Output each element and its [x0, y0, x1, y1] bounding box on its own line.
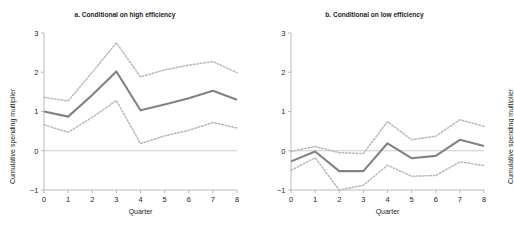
y-axis-tick-label: 3 [34, 29, 38, 38]
x-axis-tick-label: 0 [289, 195, 293, 204]
confidence-band-line [291, 158, 484, 190]
panel-a-plot: −10123012345678 [0, 0, 250, 227]
x-axis-tick-label: 6 [187, 195, 191, 204]
x-axis-tick-label: 2 [90, 195, 94, 204]
chart-panel-a: a. Conditional on high efficiency Cumula… [0, 0, 250, 227]
x-axis-tick-label: 0 [42, 195, 46, 204]
panel-b-plot: −10123012345678 [249, 0, 500, 227]
x-axis-tick-label: 3 [361, 195, 365, 204]
x-axis-tick-label: 1 [66, 195, 70, 204]
x-axis-tick-label: 1 [313, 195, 317, 204]
y-axis-tick-label: −1 [30, 186, 39, 195]
y-axis-tick-label: 2 [281, 68, 285, 77]
y-axis-tick-label: 1 [34, 107, 38, 116]
x-axis-tick-label: 6 [434, 195, 438, 204]
y-axis-tick-label: 3 [281, 29, 285, 38]
x-axis-tick-label: 4 [385, 195, 389, 204]
panel-b-y-axis-label: Cumulative spending multiplier [507, 89, 514, 184]
panel-a-x-axis-label: Quarter [44, 208, 237, 215]
y-axis-tick-label: 2 [34, 68, 38, 77]
confidence-band-line [44, 101, 237, 144]
x-axis-tick-label: 2 [337, 195, 341, 204]
y-axis-tick-label: 1 [281, 107, 285, 116]
y-axis-tick-label: −1 [277, 186, 286, 195]
y-axis-tick-label: 0 [34, 147, 38, 156]
x-axis-tick-label: 4 [138, 195, 142, 204]
x-axis-tick-label: 5 [163, 195, 167, 204]
x-axis-tick-label: 7 [211, 195, 215, 204]
central-estimate-line [291, 140, 484, 171]
x-axis-tick-label: 8 [482, 195, 486, 204]
x-axis-tick-label: 3 [114, 195, 118, 204]
x-axis-tick-label: 8 [235, 195, 239, 204]
x-axis-tick-label: 5 [410, 195, 414, 204]
confidence-band-line [291, 120, 484, 154]
x-axis-tick-label: 7 [458, 195, 462, 204]
chart-panel-b: b. Conditional on low efficiency Cumulat… [249, 0, 500, 227]
panel-b-x-axis-label: Quarter [291, 208, 484, 215]
y-axis-tick-label: 0 [281, 147, 285, 156]
